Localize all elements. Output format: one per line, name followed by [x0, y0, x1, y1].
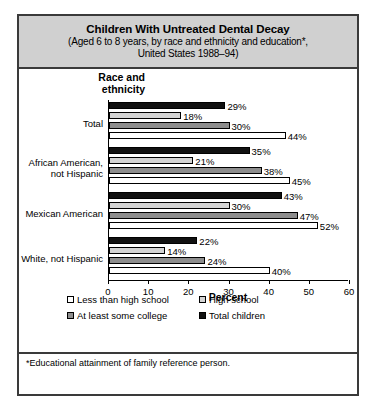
- x-axis-tick: [148, 280, 149, 284]
- legend-row-1: Less than high school High school: [19, 294, 357, 305]
- x-axis-tick: [349, 280, 350, 284]
- chart-title: Children With Untreated Dental Decay: [25, 22, 351, 36]
- category-label-line: Mexican American: [25, 207, 103, 218]
- legend-swatch-icon-less-than-high-school: [67, 296, 74, 303]
- x-axis-tick: [269, 280, 270, 284]
- chart-subtitle-line1: (Aged 6 to 8 years, by race and ethnicit…: [25, 36, 351, 48]
- bar-value-label: 24%: [207, 255, 226, 266]
- bar-value-label: 47%: [300, 210, 319, 221]
- chart-figure: Children With Untreated Dental Decay (Ag…: [17, 14, 359, 396]
- legend-label-less-than-high-school: Less than high school: [77, 294, 169, 305]
- bar-value-label: 30%: [232, 120, 251, 131]
- bar-group: Total29%18%30%44%: [109, 100, 349, 145]
- legend-item-total-children[interactable]: Total children: [199, 310, 309, 321]
- legend-item-less-than-high-school[interactable]: Less than high school: [67, 294, 199, 305]
- bar-high: 14%: [109, 247, 165, 254]
- bar-college: 38%: [109, 167, 262, 174]
- legend-label-at-least-some-college: At least some college: [77, 310, 167, 321]
- chart-legend: Less than high school High school At lea…: [19, 294, 357, 326]
- x-axis-tick: [108, 280, 109, 284]
- bar-value-label: 52%: [320, 220, 339, 231]
- bar-college: 30%: [109, 122, 230, 129]
- bar-lessthan: 52%: [109, 222, 318, 229]
- legend-swatch-icon-total-children: [199, 312, 206, 319]
- bar-value-label: 29%: [227, 100, 246, 111]
- footnote-divider: [19, 352, 357, 354]
- legend-item-at-least-some-college[interactable]: At least some college: [67, 310, 199, 321]
- chart-title-band: Children With Untreated Dental Decay (Ag…: [19, 16, 357, 69]
- bar-total: 35%: [109, 147, 250, 154]
- bar-lessthan: 45%: [109, 177, 290, 184]
- x-axis-tick: [188, 280, 189, 284]
- bar-value-label: 22%: [199, 235, 218, 246]
- legend-swatch-icon-high-school: [199, 296, 206, 303]
- bar-total: 43%: [109, 192, 282, 199]
- category-label-line: not Hispanic: [51, 168, 103, 179]
- bar-value-label: 18%: [183, 110, 202, 121]
- y-axis-title: Race and ethnicity: [79, 72, 145, 95]
- category-label-line: Total: [83, 117, 103, 128]
- bar-group: White, not Hispanic22%14%24%40%: [109, 235, 349, 280]
- bar-value-label: 45%: [292, 175, 311, 186]
- category-label-line: White, not Hispanic: [21, 252, 103, 263]
- footnote: *Educational attainment of family refere…: [26, 358, 230, 368]
- x-axis-tick: [229, 280, 230, 284]
- bar-total: 22%: [109, 237, 197, 244]
- category-label-line: African American,: [29, 157, 103, 168]
- legend-swatch-icon-at-least-some-college: [67, 312, 74, 319]
- bar-high: 18%: [109, 112, 181, 119]
- bar-value-label: 40%: [272, 265, 291, 276]
- bar-value-label: 44%: [288, 130, 307, 141]
- x-axis-tick: [309, 280, 310, 284]
- bar-group: African American,not Hispanic35%21%38%45…: [109, 145, 349, 190]
- bar-value-label: 43%: [284, 190, 303, 201]
- legend-row-2: At least some college Total children: [19, 310, 357, 321]
- bars-container: Total29%18%30%44%African American,not Hi…: [108, 100, 349, 280]
- bar-high: 21%: [109, 157, 193, 164]
- bar-value-label: 21%: [195, 155, 214, 166]
- bar-high: 30%: [109, 202, 230, 209]
- legend-item-high-school[interactable]: High school: [199, 294, 309, 305]
- category-label: Total: [83, 117, 103, 128]
- bar-value-label: 35%: [252, 145, 271, 156]
- chart-subtitle-line2: United States 1988–94): [25, 48, 351, 60]
- bar-total: 29%: [109, 102, 225, 109]
- bar-value-label: 38%: [264, 165, 283, 176]
- category-label: Mexican American: [25, 207, 103, 218]
- bar-lessthan: 44%: [109, 132, 286, 139]
- bar-value-label: 30%: [232, 200, 251, 211]
- bar-college: 24%: [109, 257, 205, 264]
- bar-group: Mexican American43%30%47%52%: [109, 190, 349, 235]
- y-axis-title-line1: Race and: [98, 71, 145, 83]
- bar-lessthan: 40%: [109, 267, 270, 274]
- bar-college: 47%: [109, 212, 298, 219]
- bar-value-label: 14%: [167, 245, 186, 256]
- y-axis-title-line2: ethnicity: [102, 83, 145, 95]
- category-label: African American,not Hispanic: [29, 157, 103, 179]
- plot-area: Race and ethnicity Total29%18%30%44%Afri…: [19, 69, 357, 305]
- category-label: White, not Hispanic: [21, 252, 103, 263]
- legend-label-high-school: High school: [209, 294, 259, 305]
- legend-label-total-children: Total children: [209, 310, 265, 321]
